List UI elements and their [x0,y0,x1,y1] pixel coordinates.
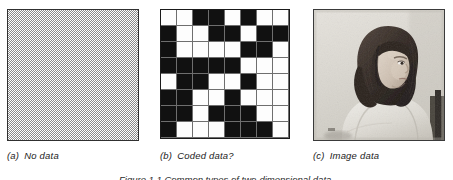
coded-cell [177,26,193,42]
coded-cell [225,26,241,42]
panel-b-caption-text: Coded data? [177,150,234,161]
coded-cell [241,106,257,122]
coded-cell [193,42,209,58]
panel-a-frame [7,9,137,139]
panel-b-label: (b) [160,150,172,161]
coded-cell [241,26,257,42]
figure-caption: Figure 1.1 Common types of two-dimension… [0,174,453,180]
coded-cell [241,42,257,58]
portrait-photo-graphic [314,10,444,140]
coded-cell [161,122,177,138]
coded-cell [177,74,193,90]
coded-cell [257,26,273,42]
coded-cell [257,90,273,106]
coded-cell [193,90,209,106]
coded-cell [193,106,209,122]
no-data-dither-fill [7,9,139,141]
coded-cell [257,58,273,74]
panel-c-frame [313,9,443,139]
coded-cell [193,26,209,42]
coded-cell [161,90,177,106]
coded-cell [241,58,257,74]
coded-cell [209,106,225,122]
coded-cell [177,10,193,26]
coded-cell [257,42,273,58]
coded-cell [209,90,225,106]
coded-cell [225,58,241,74]
coded-cell [225,122,241,138]
figure-root: (a)No data (b)Coded data? [0,0,453,180]
image-data-photo [313,9,445,141]
coded-cell [257,122,273,138]
coded-cell [177,90,193,106]
coded-cell [209,122,225,138]
coded-cell [161,26,177,42]
panel-c-label: (c) [313,150,325,161]
coded-cell [225,106,241,122]
coded-cell [209,26,225,42]
coded-cell [257,10,273,26]
coded-cell [257,74,273,90]
coded-cell [273,122,289,138]
panel-a-label: (a) [7,150,19,161]
coded-cell [177,106,193,122]
coded-cell [209,58,225,74]
panel-b [160,9,292,139]
panel-b-caption: (b)Coded data? [160,150,234,161]
coded-cell [273,26,289,42]
coded-cell [177,42,193,58]
coded-cell [225,42,241,58]
coded-cell [273,10,289,26]
coded-cell [241,122,257,138]
coded-cell [209,42,225,58]
coded-cell [161,10,177,26]
coded-cell [225,10,241,26]
coded-cell [257,106,273,122]
coded-cell [161,74,177,90]
coded-cell [193,10,209,26]
coded-cell [209,74,225,90]
coded-cell [273,42,289,58]
coded-cell [193,74,209,90]
coded-cell [241,90,257,106]
coded-cell [273,106,289,122]
panel-a-caption: (a)No data [7,150,59,161]
panel-c [313,9,445,139]
coded-cell [273,90,289,106]
coded-cell [161,58,177,74]
coded-cell [193,122,209,138]
coded-cell [161,42,177,58]
coded-cell [241,10,257,26]
coded-cell [225,90,241,106]
panel-a [7,9,139,139]
panel-a-caption-text: No data [24,150,59,161]
coded-cell [161,106,177,122]
coded-cell [209,10,225,26]
coded-cell [241,74,257,90]
coded-cell [273,74,289,90]
coded-data-grid [160,9,290,139]
panel-c-caption-text: Image data [330,150,380,161]
coded-cell [193,58,209,74]
coded-cell [177,58,193,74]
coded-cell [177,122,193,138]
coded-cell [273,58,289,74]
panel-c-caption: (c)Image data [313,150,379,161]
panel-b-frame [160,9,290,139]
coded-cell [225,74,241,90]
